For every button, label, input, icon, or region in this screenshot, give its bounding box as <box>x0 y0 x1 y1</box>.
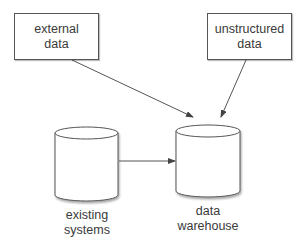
data-warehouse-label: data warehouse <box>166 204 250 234</box>
existing-systems-label: existing systems <box>46 208 128 238</box>
diagram-canvas: external data unstructured data existing… <box>0 0 299 242</box>
existing-systems-label-line2: systems <box>46 223 128 238</box>
arrow-external-to-warehouse <box>72 60 193 117</box>
unstructured-data-label-line2: data <box>215 37 284 52</box>
existing-systems-cylinder <box>55 127 118 201</box>
external-data-box: external data <box>14 13 99 60</box>
data-warehouse-label-line1: data <box>166 204 250 219</box>
unstructured-data-box: unstructured data <box>207 13 292 60</box>
unstructured-data-label-line1: unstructured <box>215 22 284 37</box>
data-warehouse-label-line2: warehouse <box>166 219 250 234</box>
existing-systems-label-line1: existing <box>46 208 128 223</box>
external-data-label-line2: data <box>34 37 78 52</box>
data-warehouse-cylinder <box>176 125 240 197</box>
external-data-label-line1: external <box>34 22 78 37</box>
arrow-unstructured-to-warehouse <box>221 60 246 117</box>
